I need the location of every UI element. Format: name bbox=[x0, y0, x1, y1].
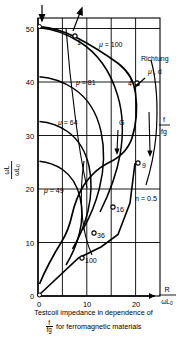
freq-den: fg bbox=[161, 128, 167, 136]
mu-label-100: μ = 100 bbox=[98, 41, 123, 49]
caption-freq-den: fg bbox=[46, 326, 53, 333]
mu-curves bbox=[40, 28, 123, 265]
chart-caption-line2: f fg for ferromagnetic materials bbox=[0, 320, 187, 334]
axis-label-y: ωL ωL0 bbox=[3, 161, 21, 179]
mu-label-64: μ = 64 bbox=[57, 119, 78, 127]
g-label: G bbox=[119, 118, 125, 127]
mu-label-81: μ = 81 bbox=[75, 79, 96, 87]
richtung-annotation: Richtung μ , d bbox=[135, 55, 169, 87]
impedance-chart: 50 40 30 20 10 0 0 10 20 R ωL0 ωL ωL0 μ … bbox=[0, 0, 187, 346]
point-marker-origin-top bbox=[38, 25, 42, 29]
g-annotation: G bbox=[114, 118, 125, 155]
right-outer-arc bbox=[146, 60, 157, 185]
axis-label-x-num: R bbox=[164, 285, 169, 294]
n-value-label: n = 0.5 bbox=[135, 194, 157, 203]
point-label-4: 4 bbox=[128, 80, 132, 87]
ytick-50: 50 bbox=[26, 25, 34, 34]
ytick-10: 10 bbox=[26, 239, 34, 248]
caption-freq-fraction: f fg bbox=[46, 320, 53, 334]
point-label-9: 9 bbox=[142, 162, 146, 169]
point-marker-36 bbox=[92, 231, 96, 235]
point-label-36: 36 bbox=[97, 232, 105, 239]
y-tick-labels: 50 40 30 20 10 0 bbox=[26, 25, 34, 302]
curve-mu-100 bbox=[40, 28, 123, 212]
axis-label-y-num: ωL bbox=[3, 165, 10, 174]
point-label-16: 16 bbox=[116, 206, 124, 213]
axis-label-x-den: ωL0 bbox=[161, 298, 173, 307]
point-label-1: 1 bbox=[77, 39, 81, 46]
point-marker-1 bbox=[73, 34, 77, 38]
ytick-40: 40 bbox=[26, 78, 34, 87]
richtung-label: Richtung bbox=[141, 55, 169, 63]
axis-label-x: R ωL0 bbox=[159, 285, 176, 306]
freq-ratio-annotation: f fg bbox=[147, 112, 170, 157]
chart-caption-line1: Testcoil impedance in dependence of bbox=[0, 308, 187, 317]
ytick-0: 0 bbox=[30, 292, 34, 301]
freq-num: f bbox=[163, 116, 165, 123]
ytick-30: 30 bbox=[26, 132, 34, 141]
curve-mu-49 bbox=[40, 161, 82, 265]
axis-label-y-den: ωL0 bbox=[13, 164, 22, 176]
point-marker-100 bbox=[80, 256, 84, 260]
point-marker-origin bbox=[38, 293, 42, 297]
richtung-symbol: μ , d bbox=[147, 68, 162, 76]
point-label-100: 100 bbox=[85, 257, 97, 264]
curve-mu-81 bbox=[40, 77, 104, 230]
ytick-20: 20 bbox=[26, 185, 34, 194]
point-marker-16 bbox=[111, 205, 115, 209]
mu-label-49: μ = 49 bbox=[43, 187, 64, 195]
caption-line2-text: for ferromagnetic materials bbox=[56, 322, 141, 331]
point-marker-9 bbox=[136, 161, 140, 165]
